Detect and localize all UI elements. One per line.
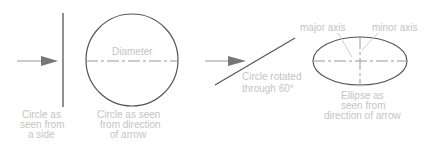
- front-label-line-3: of arrow: [110, 129, 147, 140]
- rotated-label-line-1: Circle rotated: [242, 71, 301, 82]
- diagram-canvas: Circle as seen from a side Diameter Circ…: [0, 0, 433, 150]
- ellipse-label-line-3: direction of arrow: [324, 110, 401, 121]
- panel-ellipse-view: major axis minor axis Ellipse as seen fr…: [300, 22, 418, 121]
- panel-front-view: Diameter Circle as seen from direction o…: [86, 14, 178, 140]
- panel-rotated-view: Circle rotated through 60°: [205, 38, 301, 94]
- panel-side-view: Circle as seen from a side: [17, 13, 64, 140]
- circle-outline: [86, 14, 178, 106]
- rotated-label-line-2: through 60°: [242, 83, 294, 94]
- side-label-line-3: a side: [28, 129, 55, 140]
- view-arrow-head-icon: [228, 56, 246, 66]
- circle-projection-diagram: Circle as seen from a side Diameter Circ…: [0, 0, 433, 150]
- diameter-label: Diameter: [112, 46, 153, 57]
- view-arrow-head-icon: [41, 56, 58, 66]
- minor-axis-label: minor axis: [372, 22, 418, 33]
- major-axis-leader: [338, 33, 352, 57]
- major-axis-label: major axis: [300, 22, 346, 33]
- minor-axis-leader: [362, 33, 378, 50]
